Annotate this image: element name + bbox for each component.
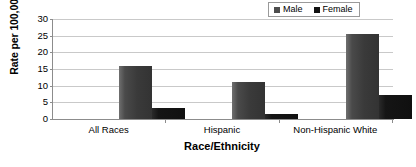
legend-swatch-female-icon xyxy=(314,7,320,13)
legend-item-female: Female xyxy=(314,5,353,14)
category-separator xyxy=(279,119,280,123)
y-axis-tick-label: 0 xyxy=(26,114,48,124)
category-separator xyxy=(392,119,393,123)
legend-label-female: Female xyxy=(323,5,353,14)
x-axis-category-label: Non-Hispanic White xyxy=(279,124,392,135)
bar-male-hispanic xyxy=(232,82,265,119)
x-axis-title: Race/Ethnicity xyxy=(52,140,392,152)
y-axis-tick-label: 10 xyxy=(26,81,48,91)
legend-item-male: Male xyxy=(274,5,303,14)
bar-male-all-races xyxy=(119,66,152,119)
plot-area xyxy=(52,19,393,119)
x-axis-line xyxy=(53,119,394,120)
y-axis-tickmark xyxy=(50,19,53,20)
y-axis-tick-label: 5 xyxy=(26,97,48,107)
chart-legend: Male Female xyxy=(268,2,360,17)
legend-swatch-male-icon xyxy=(274,7,280,13)
y-axis-tickmark xyxy=(50,119,53,120)
y-axis-tickmark xyxy=(50,86,53,87)
category-separator xyxy=(165,119,166,123)
bar-female-hispanic xyxy=(265,114,298,119)
y-axis-tick-labels: 051015202530 xyxy=(24,0,48,167)
y-axis-tickmark xyxy=(50,36,53,37)
bar-female-non-hispanic-white xyxy=(379,95,412,119)
bar-male-non-hispanic-white xyxy=(346,34,379,119)
x-axis-category-label: All Races xyxy=(52,124,165,135)
y-axis-tickmark xyxy=(50,102,53,103)
y-axis-tick-label: 20 xyxy=(26,47,48,57)
bar-group xyxy=(332,19,416,119)
y-axis-tickmark xyxy=(50,69,53,70)
y-axis-tickmark xyxy=(50,52,53,53)
x-axis-category-label: Hispanic xyxy=(165,124,278,135)
legend-label-male: Male xyxy=(283,5,303,14)
y-axis-tick-label: 25 xyxy=(26,31,48,41)
bar-female-all-races xyxy=(152,108,185,119)
y-axis-tick-label: 15 xyxy=(26,64,48,74)
y-axis-title: Rate per 100,000 xyxy=(8,0,20,89)
y-axis-tick-label: 30 xyxy=(26,14,48,24)
bar-group xyxy=(105,19,218,119)
bar-group xyxy=(218,19,331,119)
